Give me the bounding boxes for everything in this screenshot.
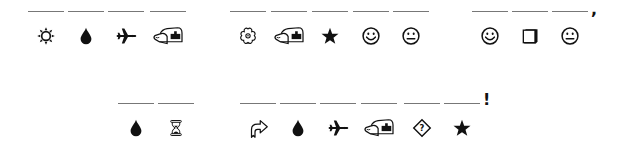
neutral-face-icon xyxy=(552,25,588,47)
star-icon xyxy=(312,25,348,47)
blank-line[interactable] xyxy=(68,11,104,12)
blank-line[interactable] xyxy=(393,11,429,12)
shadowed-square-icon xyxy=(512,25,548,47)
blank-line[interactable] xyxy=(512,11,548,12)
droplet-icon xyxy=(68,25,104,47)
smiley-icon xyxy=(353,25,389,47)
blank-line[interactable] xyxy=(552,11,588,12)
sun-icon xyxy=(28,25,64,47)
airplane-icon xyxy=(108,25,144,47)
star-icon xyxy=(444,117,480,139)
blank-line[interactable] xyxy=(108,11,144,12)
hourglass-icon xyxy=(158,117,194,139)
blank-line[interactable] xyxy=(404,103,440,104)
mailbox-icon xyxy=(150,25,186,47)
blank-line[interactable] xyxy=(240,103,276,104)
blank-line[interactable] xyxy=(271,11,307,12)
question-diamond-icon xyxy=(404,117,440,139)
neutral-face-icon xyxy=(393,25,429,47)
blank-line[interactable] xyxy=(361,103,397,104)
blank-line[interactable] xyxy=(28,11,64,12)
blank-line[interactable] xyxy=(312,11,348,12)
blank-line[interactable] xyxy=(320,103,356,104)
blank-line[interactable] xyxy=(280,103,316,104)
mailbox-icon xyxy=(271,25,307,47)
share-arrow-icon xyxy=(240,117,276,139)
comma-punctuation: , xyxy=(591,2,597,18)
mailbox-icon xyxy=(361,117,397,139)
blank-line[interactable] xyxy=(230,11,266,12)
blank-line[interactable] xyxy=(158,103,194,104)
blank-line[interactable] xyxy=(472,11,508,12)
blank-line[interactable] xyxy=(150,11,186,12)
flower-icon xyxy=(230,25,266,47)
blank-line[interactable] xyxy=(353,11,389,12)
smiley-icon xyxy=(472,25,508,47)
droplet-icon xyxy=(118,117,154,139)
airplane-icon xyxy=(320,117,356,139)
blank-line[interactable] xyxy=(444,103,480,104)
droplet-icon xyxy=(280,117,316,139)
blank-line[interactable] xyxy=(118,103,154,104)
exclamation-punctuation: ! xyxy=(483,92,490,108)
